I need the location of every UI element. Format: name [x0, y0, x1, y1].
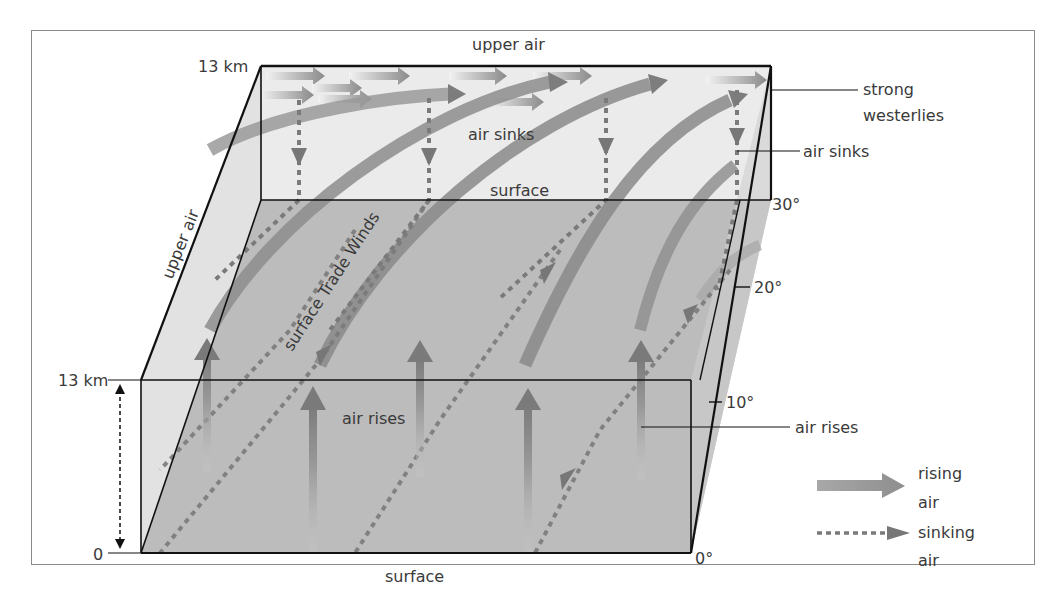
latitude-30-label: 30°	[772, 195, 800, 214]
rising-air-legend-arrow-icon	[817, 473, 905, 498]
air-sinks-inside-label: air sinks	[468, 125, 534, 144]
sinking-air-legend-arrowhead-icon	[887, 526, 910, 540]
latitude-0-label: 0°	[695, 549, 713, 568]
strong-westerlies-label-2: westerlies	[863, 106, 944, 125]
surface-front-label: surface	[385, 567, 444, 586]
height-top-back-label: 13 km	[198, 57, 248, 76]
hadley-cell-diagram: upper air 13 km air sinks surface upper …	[0, 0, 1064, 596]
height-top-front-label: 13 km	[58, 371, 108, 390]
legend-sinking-line1: sinking	[918, 523, 975, 542]
height-scale	[108, 380, 141, 553]
air-rises-inside-label: air rises	[342, 409, 405, 428]
upper-air-top-label: upper air	[472, 35, 545, 54]
air-sinks-callout-label: air sinks	[803, 142, 869, 161]
air-rises-callout-label: air rises	[795, 418, 858, 437]
legend-item-sinking-air: sinking air	[817, 523, 975, 570]
legend-rising-line1: rising	[918, 464, 962, 483]
legend-item-rising-air: rising air	[817, 464, 962, 512]
legend-rising-line2: air	[918, 493, 939, 512]
strong-westerlies-label-1: strong	[863, 80, 914, 99]
latitude-20-label: 20°	[754, 278, 782, 297]
height-zero-label: 0	[93, 545, 103, 564]
surface-back-label: surface	[490, 181, 549, 200]
legend: rising air sinking air	[817, 464, 975, 570]
legend-sinking-line2: air	[918, 551, 939, 570]
latitude-10-label-text: 10°	[726, 393, 754, 412]
